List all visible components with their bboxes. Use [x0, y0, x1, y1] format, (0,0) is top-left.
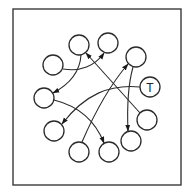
- edge-n11-to-n2: [63, 53, 104, 70]
- node-n7: [99, 142, 119, 162]
- edges: [53, 53, 140, 143]
- node-n8: [69, 142, 89, 162]
- node-n10: [34, 88, 54, 108]
- node-n9: [44, 121, 64, 141]
- graph-diagram: T: [0, 0, 191, 196]
- edge-n8-to-n3: [82, 64, 128, 142]
- edge-n3-to-n6: [128, 67, 133, 131]
- node-n5: [137, 110, 157, 130]
- node-T: T: [140, 77, 160, 97]
- node-n1: [69, 35, 89, 55]
- node-T-label: T: [146, 81, 154, 95]
- node-n2: [98, 33, 118, 53]
- nodes: T: [34, 33, 160, 162]
- node-n11: [43, 55, 63, 75]
- node-n6: [121, 131, 141, 151]
- node-n3: [126, 47, 146, 67]
